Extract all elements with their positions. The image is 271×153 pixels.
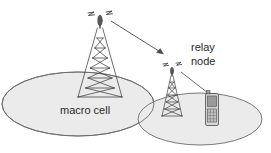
macro-tower-radio-waves — [88, 11, 113, 16]
relay-node-label-line2: node — [191, 55, 215, 67]
relay-brace — [169, 82, 175, 88]
relay-cell-ellipse — [138, 93, 262, 145]
backhaul-link — [111, 21, 164, 54]
tower-brace — [95, 38, 105, 48]
relay-tower-radio-waves — [163, 62, 182, 66]
relay-node-tower — [162, 67, 182, 116]
radio-wave-right-icon — [106, 11, 113, 15]
radio-wave-left-icon — [163, 63, 169, 66]
macro-cell-label: macro cell — [60, 104, 110, 116]
relay-antenna-head — [170, 67, 173, 74]
tower-brace — [93, 48, 108, 58]
radio-wave-left-icon — [88, 12, 95, 16]
diagram-canvas: macro cell relay node — [0, 0, 271, 153]
backhaul-arrow-head-icon — [157, 49, 164, 54]
relay-node-label-line1: relay — [191, 41, 215, 53]
relay-brace — [168, 88, 177, 95]
access-link — [181, 72, 208, 93]
antenna-head — [98, 15, 102, 25]
network-diagram: macro cell relay node — [0, 0, 271, 153]
backhaul-arrow-shaft — [111, 21, 162, 53]
radio-wave-right-icon — [176, 62, 182, 65]
coverage-cells — [2, 72, 262, 145]
mobile-handset — [206, 91, 219, 126]
handset-screen — [207, 96, 216, 107]
access-link-line — [181, 72, 208, 93]
tower-brace — [90, 58, 109, 68]
handset-antenna-nub — [207, 91, 210, 94]
